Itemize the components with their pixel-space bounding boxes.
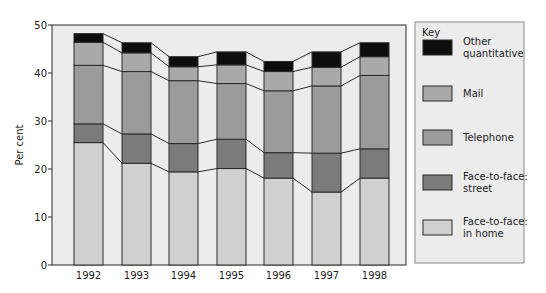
bar-segment — [264, 153, 293, 178]
x-tick-label: 1993 — [124, 270, 149, 281]
x-tick-label: 1997 — [314, 270, 339, 281]
legend-item: Telephone — [423, 130, 514, 145]
bar-segment — [122, 53, 151, 72]
bar-1996: 1996 — [264, 61, 293, 281]
bar-segment — [312, 52, 341, 67]
legend-swatch — [423, 86, 452, 101]
bar-segment — [264, 72, 293, 91]
x-tick-label: 1996 — [266, 270, 291, 281]
x-tick-label: 1992 — [76, 270, 101, 281]
bar-segment — [74, 34, 103, 43]
y-tick-label: 0 — [41, 260, 47, 271]
legend-label: street — [463, 183, 492, 194]
legend-swatch — [423, 130, 452, 145]
bar-segment — [169, 67, 198, 81]
legend-label: quantitative — [463, 48, 524, 59]
bar-1992: 1992 — [74, 34, 103, 281]
y-tick-label: 30 — [34, 116, 47, 127]
legend-label: Telephone — [462, 132, 514, 143]
bar-1997: 1997 — [312, 52, 341, 281]
y-tick-label: 10 — [34, 212, 47, 223]
x-tick-label: 1995 — [219, 270, 244, 281]
bar-segment — [74, 124, 103, 143]
legend-title: Key — [422, 27, 440, 38]
bar-segment — [217, 169, 246, 265]
y-tick-label: 20 — [34, 164, 47, 175]
bar-segment — [169, 144, 198, 172]
bar-segment — [122, 43, 151, 53]
bar-segment — [74, 143, 103, 265]
bar-segment — [264, 61, 293, 71]
bar-segment — [169, 57, 198, 67]
bar-segment — [360, 43, 389, 57]
bar-segment — [264, 91, 293, 153]
x-tick-label: 1994 — [171, 270, 196, 281]
legend: Key OtherquantitativeMailTelephoneFace-t… — [415, 22, 528, 263]
legend-label: Other — [463, 36, 492, 47]
legend-label: Face-to-face: — [463, 216, 528, 227]
legend-swatch — [423, 175, 452, 190]
bar-1993: 1993 — [122, 43, 151, 281]
legend-label: in home — [463, 228, 504, 239]
bar-segment — [360, 75, 389, 148]
bar-segment — [360, 178, 389, 265]
bar-segment — [122, 72, 151, 134]
bar-segment — [312, 67, 341, 86]
legend-swatch — [423, 220, 452, 235]
bar-segment — [312, 153, 341, 192]
y-tick-label: 40 — [34, 68, 47, 79]
bar-segment — [360, 149, 389, 178]
bar-segment — [122, 163, 151, 265]
axes: 01020304050 — [34, 20, 52, 271]
bar-1998: 1998 — [360, 43, 389, 281]
bar-segment — [264, 178, 293, 265]
bar-segment — [169, 81, 198, 144]
y-tick-label: 50 — [34, 20, 47, 31]
bar-segment — [74, 42, 103, 65]
bar-segment — [312, 86, 341, 153]
x-tick-label: 1998 — [362, 270, 387, 281]
bar-segment — [360, 57, 389, 76]
bar-1995: 1995 — [217, 52, 246, 281]
bar-segment — [217, 139, 246, 168]
bar-segment — [312, 192, 341, 265]
legend-label: Face-to-face: — [463, 171, 528, 182]
bar-segment — [217, 65, 246, 84]
y-axis-title: Per cent — [14, 124, 25, 165]
bar-segment — [217, 84, 246, 140]
bar-segment — [122, 134, 151, 163]
legend-swatch — [423, 40, 452, 55]
bar-segment — [217, 52, 246, 65]
bar-segment — [169, 172, 198, 265]
bar-segment — [74, 65, 103, 124]
legend-label: Mail — [463, 88, 483, 99]
stacked-bar-chart: 1992199319941995199619971998 01020304050… — [0, 0, 546, 293]
bar-1994: 1994 — [169, 57, 198, 281]
